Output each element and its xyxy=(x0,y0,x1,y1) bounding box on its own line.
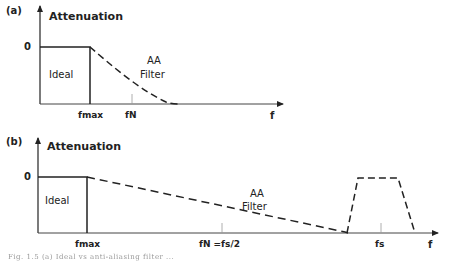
panel-b-zero-label: 0 xyxy=(24,171,31,182)
panel-b-filter-label-line1: AA xyxy=(250,188,264,199)
panel-a-zero-label: 0 xyxy=(24,41,31,52)
panel-b-tick-fmax: fmax xyxy=(75,239,100,249)
panel-a-label: (a) xyxy=(6,5,22,16)
figure-caption: Fig. 1.5 (a) Ideal vs anti-aliasing filt… xyxy=(8,253,174,261)
panel-b-filter-label-line2: Filter xyxy=(242,201,268,212)
panel-a-tick-fmax: fmax xyxy=(78,110,103,120)
panel-b-x-axis-label: f xyxy=(428,239,433,250)
panel-a-ideal-label: Ideal xyxy=(49,69,73,80)
panel-a-filter-label-line1: AA xyxy=(147,55,161,66)
panel-b-tick-fs: fs xyxy=(375,239,384,249)
anti-aliasing-filter-diagram: (a) Attenuation f 0 Ideal AA Filter fmax… xyxy=(0,0,454,265)
panel-b-y-axis-label: Attenuation xyxy=(47,140,121,153)
panel-a-filter-label-line2: Filter xyxy=(140,69,166,80)
panel-a-tick-fn: fN xyxy=(125,110,136,120)
panel-b-aa-filter-line xyxy=(87,177,348,233)
panel-a: (a) Attenuation f 0 Ideal AA Filter fmax… xyxy=(6,5,283,121)
panel-b-tick-fn: fN =fs/2 xyxy=(199,239,240,249)
panel-b-label: (b) xyxy=(6,136,22,147)
panel-b-ideal-label: Ideal xyxy=(45,195,69,206)
panel-a-x-axis-label: f xyxy=(270,110,275,121)
panel-b: (b) Attenuation f 0 Ideal AA Filter fmax… xyxy=(6,136,438,250)
panel-a-y-axis-label: Attenuation xyxy=(49,10,123,23)
panel-a-aa-filter-curve xyxy=(90,47,180,104)
